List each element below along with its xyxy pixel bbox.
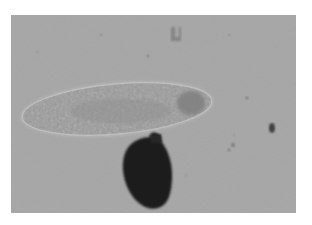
- micrograph-scene: [11, 15, 296, 213]
- micrograph-photo: [11, 15, 296, 213]
